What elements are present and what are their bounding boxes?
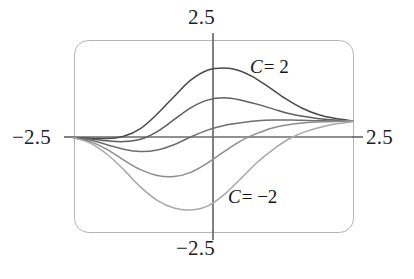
- axis-label-top: 2.5: [188, 5, 215, 30]
- axis-label-bottom: −2.5: [176, 236, 215, 261]
- curve-annotation-c-positive: C= 2: [250, 56, 289, 78]
- plot-figure: 2.5 −2.5 −2.5 2.5 C= 2 C= −2: [0, 0, 414, 279]
- axes-group: [64, 33, 363, 240]
- axis-label-right: 2.5: [366, 125, 393, 150]
- axis-label-left: −2.5: [12, 125, 51, 150]
- c-symbol-negative: C: [228, 186, 242, 207]
- c-symbol-positive: C: [250, 56, 264, 77]
- c-value-negative: = −2: [242, 186, 278, 207]
- curve-annotation-c-negative: C= −2: [228, 186, 277, 208]
- c-value-positive: = 2: [264, 56, 289, 77]
